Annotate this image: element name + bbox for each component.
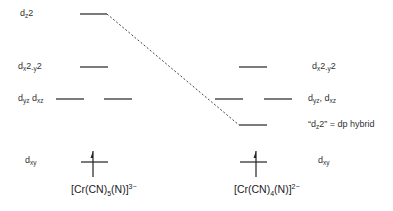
left-spin-up-electron-icon — [91, 151, 94, 177]
dz2-correlation-dashed-line — [107, 14, 239, 125]
left-dyz-dxz-label: dyz dxz — [18, 93, 44, 103]
left-complex-formula: [Cr(CN)5(N)]3− — [71, 183, 137, 195]
left-dxy-label: dxy — [25, 155, 37, 165]
right-spin-up-electron-icon — [254, 151, 257, 177]
left-dz2-label: dz2 — [20, 8, 33, 18]
right-complex-formula: [Cr(CN)4(N)]2− — [234, 183, 300, 195]
right-dyz-dxz-label: dyz, dxz — [308, 93, 336, 103]
right-dxy-label: dxy — [318, 155, 330, 165]
left-dx2y2-label: dx2-y2 — [18, 61, 42, 71]
orbital-diagram — [0, 0, 393, 211]
right-dx2y2-label: dx2-y2 — [312, 61, 336, 71]
right-dz2-hybrid-label: “dz2” = dp hybrid — [308, 119, 375, 129]
